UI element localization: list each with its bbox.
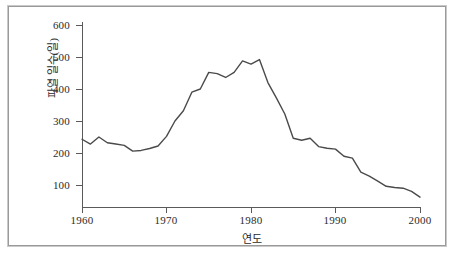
y-axis-label: 파열 일수(일) xyxy=(44,13,60,123)
x-tick-label-1980: 1980 xyxy=(240,214,263,226)
x-tick-label-2000: 2000 xyxy=(409,214,432,226)
x-tick-mark-2000 xyxy=(420,207,421,213)
x-axis-label: 연도 xyxy=(82,230,421,246)
y-tick-mark-100 xyxy=(76,185,83,186)
y-tick-mark-600 xyxy=(76,25,83,26)
x-tick-label-1960: 1960 xyxy=(71,214,94,226)
y-tick-mark-200 xyxy=(76,153,83,154)
x-tick-mark-1990 xyxy=(335,207,336,213)
y-tick-mark-300 xyxy=(76,121,83,122)
y-tick-mark-500 xyxy=(76,57,83,58)
x-tick-mark-1980 xyxy=(251,207,252,213)
y-tick-label-200: 200 xyxy=(53,147,70,159)
x-tick-label-1990: 1990 xyxy=(324,214,347,226)
y-axis-line xyxy=(82,22,83,208)
y-tick-mark-400 xyxy=(76,89,83,90)
y-tick-label-100: 100 xyxy=(53,179,70,191)
figure-border xyxy=(8,6,446,246)
x-tick-label-1970: 1970 xyxy=(155,214,178,226)
chart-figure: 600 500 400 300 200 100 1960 1970 1980 1… xyxy=(0,0,455,254)
x-tick-mark-1960 xyxy=(82,207,83,213)
x-tick-mark-1970 xyxy=(166,207,167,213)
